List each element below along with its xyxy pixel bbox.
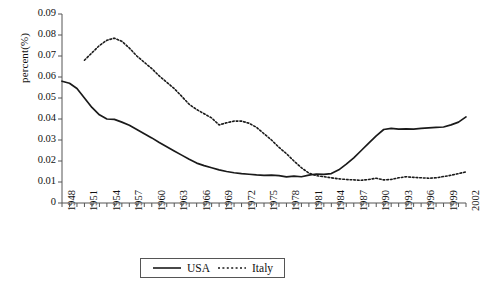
legend-label: Italy bbox=[252, 262, 273, 274]
axes bbox=[58, 14, 466, 207]
legend-item-usa: USA bbox=[152, 262, 210, 274]
series-line-usa bbox=[62, 81, 466, 177]
legend-swatch-solid bbox=[152, 263, 182, 273]
chart-legend: USAItaly bbox=[140, 258, 285, 278]
legend-item-italy: Italy bbox=[217, 262, 273, 274]
legend-label: USA bbox=[187, 262, 210, 274]
data-series bbox=[62, 38, 466, 180]
series-line-italy bbox=[84, 38, 466, 180]
legend-swatch-dotted bbox=[217, 263, 247, 273]
